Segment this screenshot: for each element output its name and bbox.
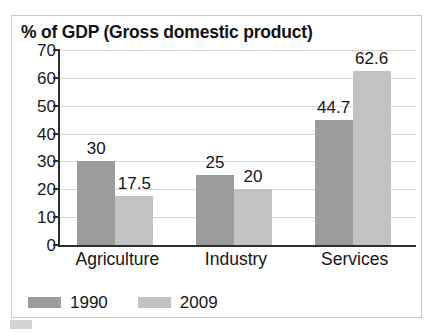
y-axis-tick-label: 50 [12, 97, 56, 114]
y-axis-tick-mark [53, 49, 60, 51]
x-axis-category-labels: AgricultureIndustryServices [58, 249, 414, 277]
legend-item: 1990 [28, 294, 108, 311]
y-axis-tick-labels: 706050403020100 [12, 50, 56, 280]
chart-card: % of GDP (Gross domestic product) 706050… [11, 15, 422, 318]
bar-value-label: 62.6 [342, 50, 402, 67]
plot-wrapper: 706050403020100 3017.5252044.762.6 Agric… [12, 50, 421, 280]
y-axis-tick-mark [53, 188, 60, 190]
bar [115, 196, 153, 245]
legend-swatch [28, 297, 61, 308]
bar [196, 175, 234, 245]
scan-artifact [10, 320, 32, 329]
legend-label: 2009 [180, 294, 218, 311]
legend-item: 2009 [138, 294, 218, 311]
x-axis-label: Industry [177, 249, 296, 270]
y-axis-tick-mark [53, 133, 60, 135]
plot-area: 3017.5252044.762.6 [58, 50, 416, 247]
legend-label: 1990 [70, 294, 108, 311]
y-axis-tick-mark [53, 216, 60, 218]
bar-value-label: 30 [66, 140, 126, 157]
bar [234, 189, 272, 245]
bar-value-label: 20 [223, 168, 283, 185]
chart-title: % of GDP (Gross domestic product) [21, 22, 313, 43]
y-axis-tick-mark [53, 244, 60, 246]
y-axis-tick-label: 30 [12, 153, 56, 170]
x-axis-label: Agriculture [58, 249, 177, 270]
bar [315, 120, 353, 245]
y-axis-tick-mark [53, 105, 60, 107]
chart-legend: 19902009 [28, 291, 248, 313]
bars-layer: 3017.5252044.762.6 [60, 50, 416, 245]
y-axis-tick-label: 0 [12, 237, 56, 254]
legend-swatch [138, 297, 171, 308]
y-axis-tick-label: 20 [12, 181, 56, 198]
bar [353, 71, 391, 245]
bar-value-label: 17.5 [104, 175, 164, 192]
y-axis-tick-label: 40 [12, 125, 56, 142]
y-axis-tick-mark [53, 160, 60, 162]
bar [77, 161, 115, 245]
x-axis-label: Services [295, 249, 414, 270]
y-axis-tick-mark [53, 77, 60, 79]
y-axis-tick-label: 70 [12, 42, 56, 59]
y-axis-tick-label: 10 [12, 209, 56, 226]
y-axis-tick-label: 60 [12, 69, 56, 86]
